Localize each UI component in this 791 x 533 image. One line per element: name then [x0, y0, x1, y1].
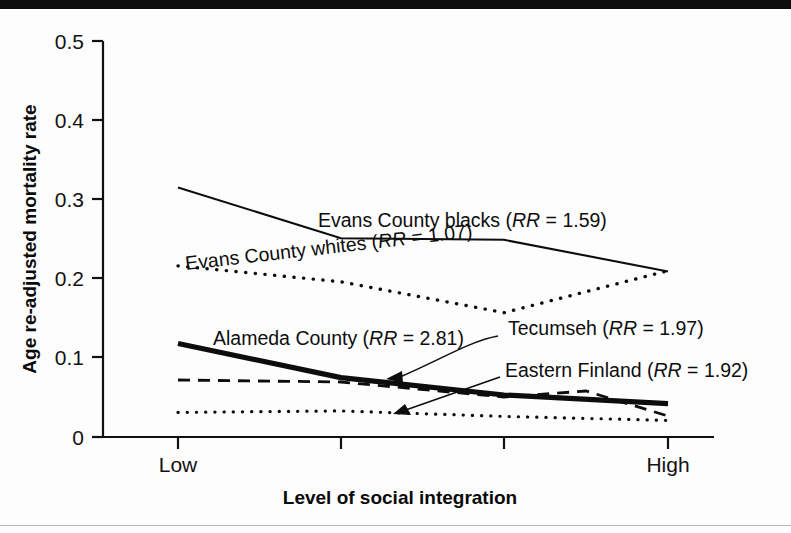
annotation-eastern-finland-tail: = 1.92): [682, 359, 749, 381]
annotation-eastern-finland-name: Eastern Finland (: [505, 359, 654, 381]
annotation-eastern-finland: Eastern Finland (RR = 1.92): [505, 359, 748, 381]
series-line-eastern-finland: [178, 411, 668, 421]
annotation-evans-county-whites-name: Evans County whites (: [184, 230, 380, 274]
annotation-tecumseh: Tecumseh (RR = 1.97): [508, 317, 704, 339]
annotation-alameda-county: Alameda County (RR = 2.81): [213, 327, 464, 349]
y-axis-title: Age re-adjusted mortality rate: [19, 104, 40, 373]
x-axis-ticks: [178, 437, 668, 449]
annotation-tecumseh-tail: = 1.97): [637, 317, 704, 339]
y-tick-label-0.3: 0.3: [55, 188, 84, 211]
annotation-evans-county-whites-rr: RR: [377, 227, 407, 252]
annotation-evans-county-blacks-tail: = 1.59): [540, 209, 607, 231]
line-chart: 0.5 0.4 0.3 0.2 0.1 0 Low High Level of …: [0, 0, 791, 533]
x-axis-tick-labels: Low High: [159, 453, 690, 476]
annotation-alameda-county-rr: RR: [369, 327, 397, 349]
annotation-tecumseh-rr: RR: [609, 317, 637, 339]
annotation-alameda-county-tail: = 2.81): [397, 327, 464, 349]
x-tick-label-high: High: [646, 453, 689, 476]
y-tick-label-0.1: 0.1: [55, 346, 84, 369]
y-axis-ticks: [92, 41, 103, 437]
y-tick-label-0.4: 0.4: [55, 109, 85, 132]
y-tick-label-0: 0: [72, 426, 84, 449]
y-tick-label-0.5: 0.5: [55, 30, 84, 53]
annotation-evans-county-blacks-rr: RR: [512, 209, 540, 231]
x-axis-title: Level of social integration: [283, 487, 517, 508]
y-axis-tick-labels: 0.5 0.4 0.3 0.2 0.1 0: [55, 30, 85, 449]
annotation-alameda-county-name: Alameda County (: [213, 327, 370, 349]
series-line-evans-county-whites: [178, 266, 668, 313]
x-tick-label-low: Low: [159, 453, 198, 476]
y-tick-label-0.2: 0.2: [55, 267, 84, 290]
annotation-eastern-finland-rr: RR: [654, 359, 682, 381]
figure-container: 0.5 0.4 0.3 0.2 0.1 0 Low High Level of …: [0, 0, 791, 533]
annotation-tecumseh-name: Tecumseh (: [508, 317, 609, 339]
